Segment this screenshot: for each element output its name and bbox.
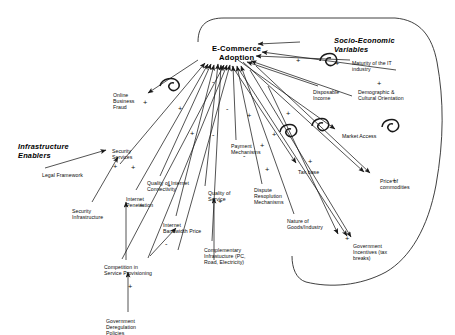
polarity-mark-positive: +: [128, 283, 132, 290]
node-security-infrastructure: SecurityInfrastructure: [72, 208, 103, 220]
node-legal-framework: Legal Framework: [42, 172, 83, 178]
polarity-mark-positive: +: [377, 80, 381, 87]
node-disposable-income: DisposableIncome: [313, 89, 339, 101]
polarity-mark-positive: +: [392, 177, 396, 184]
polarity-mark-positive: +: [143, 99, 147, 106]
polarity-mark-positive: +: [345, 235, 349, 242]
polarity-mark-positive: +: [260, 142, 264, 149]
polarity-mark-positive: +: [247, 112, 251, 119]
node-tax-base: Tax base: [298, 169, 319, 175]
polarity-mark-negative: -: [212, 131, 214, 138]
node-internet-bandwidth-price: InternetBandwidth Price: [163, 222, 201, 234]
polarity-mark-positive: +: [296, 57, 300, 64]
node-competition-in-service-provisioning: Competition inService Provisioning: [104, 264, 152, 276]
polarity-mark-positive: +: [286, 110, 290, 117]
polarity-mark-positive: +: [190, 130, 194, 137]
polarity-mark-positive: +: [308, 158, 312, 165]
node-complementary-infrastructure: ComplementaryInfrastucture (PC,Road, Ele…: [204, 247, 246, 265]
causal-links: [45, 42, 399, 312]
node-maturity-of-the-it-industry: Maturity of the ITindustry: [352, 60, 392, 72]
node-security-services: SecurityServices: [112, 148, 132, 160]
group-header-socio-economic: Socio-EconomicVariables: [334, 36, 395, 54]
node-government-incentives: GovernmentIncentives (taxbreaks): [353, 243, 387, 261]
polarity-mark-positive: +: [335, 60, 339, 67]
polarity-mark-negative: -: [226, 105, 228, 112]
polarity-mark-positive: +: [167, 182, 171, 189]
node-demographic-cultural-orientation: Demographic &Cultural Orientation: [358, 89, 404, 101]
node-dispute-resolution-mechanisms: DisputeResoplutionMechanisms: [254, 187, 284, 205]
polarity-mark-positive: +: [218, 198, 222, 205]
polarity-mark-positive: +: [265, 166, 269, 173]
node-nature-of-goods-industry: Nature ofGoods/Industry: [287, 218, 323, 230]
polarity-mark-negative: -: [330, 121, 332, 128]
node-e-commerce-adoption: E-CommerceAdoption: [212, 44, 261, 62]
group-header-infrastructure: InfrastructureEnablers: [18, 142, 69, 160]
node-payment-mechanisms: PaymentMechanisms: [231, 143, 261, 155]
node-market-access: Market Access: [342, 133, 376, 139]
node-government-deregulation: GovernmentDeregulationPolicies: [106, 318, 136, 335]
polarity-mark-negative: -: [243, 152, 245, 159]
polarity-mark-positive: +: [113, 163, 117, 170]
polarity-mark-positive: +: [139, 202, 143, 209]
polarity-mark-positive: +: [272, 131, 276, 138]
node-online-business-fraud: OnlineBusinessFraud: [113, 92, 134, 110]
polarity-mark-positive: +: [131, 164, 135, 171]
polarity-mark-negative: -: [165, 240, 167, 247]
polarity-mark-negative: -: [212, 78, 214, 85]
polarity-mark-positive: +: [178, 105, 182, 112]
